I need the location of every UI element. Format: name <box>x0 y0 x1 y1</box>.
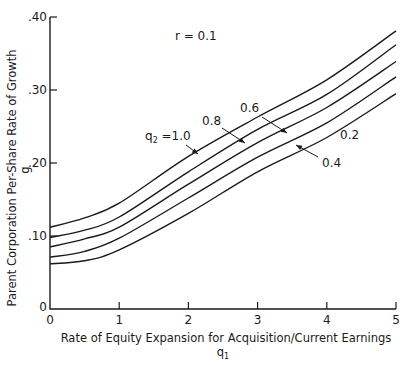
y-axis-title: Parent Corporation Per-Share Rate of Gro… <box>5 49 19 306</box>
series-label: q2 =1.0 <box>145 129 191 145</box>
x-tick-label: 3 <box>254 313 262 327</box>
x-axis-symbol: q1 <box>217 345 229 361</box>
series-curve-0-6 <box>50 62 396 247</box>
x-axis-title: Rate of Equity Expansion for Acquisition… <box>61 331 392 345</box>
y-axis-symbol: g <box>18 166 32 173</box>
series-label: 0.4 <box>322 156 341 170</box>
series-curve-0-4 <box>50 77 396 257</box>
curves <box>50 31 396 264</box>
x-tick-label: 0 <box>46 313 54 327</box>
y-tick-label: .30 <box>28 83 47 97</box>
series-label: 0.2 <box>340 128 359 142</box>
chart: 0123450.10.20.30.40 q2 =1.00.80.60.40.2 … <box>0 0 411 365</box>
chart-canvas: 0123450.10.20.30.40 q2 =1.00.80.60.40.2 … <box>0 0 411 365</box>
x-tick-label: 5 <box>392 313 400 327</box>
r-annotation: r = 0.1 <box>175 29 217 43</box>
series-curve-0-2 <box>50 94 396 264</box>
x-tick-label: 1 <box>115 313 123 327</box>
series-label: 0.8 <box>202 114 221 128</box>
y-tick-label: .40 <box>28 10 47 24</box>
y-tick-label: 0 <box>39 300 47 314</box>
x-tick-label: 4 <box>323 313 331 327</box>
y-tick-label: .10 <box>28 229 47 243</box>
series-label: 0.6 <box>240 101 259 115</box>
x-tick-label: 2 <box>185 313 193 327</box>
